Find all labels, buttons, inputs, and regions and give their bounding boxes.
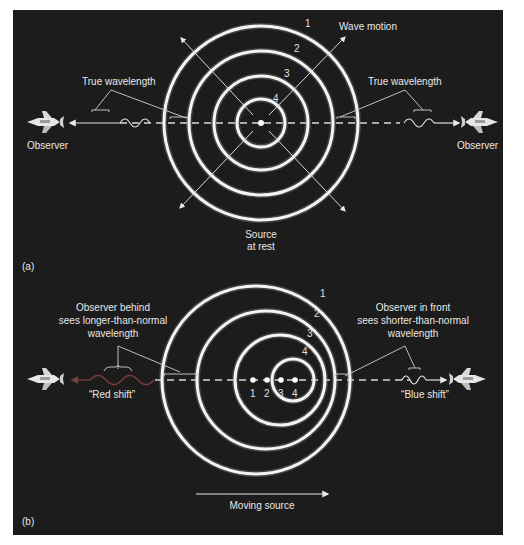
wave-number-4: 4 (302, 346, 308, 357)
figure-background (13, 10, 503, 535)
right-true-wavelength-label: True wavelength (368, 76, 442, 87)
right-note-line3: wavelength (387, 328, 439, 339)
source-dot-2 (264, 377, 270, 383)
source-position-1: 1 (250, 388, 256, 399)
right-observer-label: Observer (457, 140, 499, 151)
left-note-line3: wavelength (87, 328, 139, 339)
source-position-3: 3 (278, 388, 284, 399)
wave-number-1: 1 (305, 18, 311, 29)
right-note-line2: sees shorter-than-normal (357, 315, 469, 326)
left-true-wavelength-label: True wavelength (82, 76, 156, 87)
wave-number-4: 4 (273, 93, 279, 104)
source-position-2: 2 (264, 388, 270, 399)
wave-number-3: 3 (284, 68, 290, 79)
source-position-4: 4 (292, 388, 298, 399)
panel-a-label: (a) (22, 261, 34, 272)
source-label-line2: at rest (247, 241, 275, 252)
wave-number-2: 2 (294, 43, 300, 54)
moving-source-label: Moving source (229, 500, 294, 511)
source-dot (258, 120, 264, 126)
source-label-line1: Source (245, 229, 277, 240)
red-shift-label: “Red shift” (89, 389, 135, 400)
wave-number-1: 1 (320, 288, 326, 299)
source-dot-1 (250, 377, 256, 383)
wave-number-3: 3 (307, 328, 313, 339)
source-dot-4 (292, 377, 298, 383)
right-note-line1: Observer in front (376, 302, 451, 313)
doppler-diagram: 1 2 3 4 Wave motion True wavelength True… (0, 0, 524, 545)
source-dot-3 (278, 377, 284, 383)
left-note-line1: Observer behind (76, 302, 150, 313)
left-observer-label: Observer (27, 140, 69, 151)
wave-motion-label: Wave motion (339, 21, 397, 32)
blue-shift-label: “Blue shift” (401, 389, 449, 400)
panel-b-label: (b) (22, 516, 34, 527)
wave-number-2: 2 (314, 308, 320, 319)
left-note-line2: sees longer-than-normal (59, 315, 167, 326)
